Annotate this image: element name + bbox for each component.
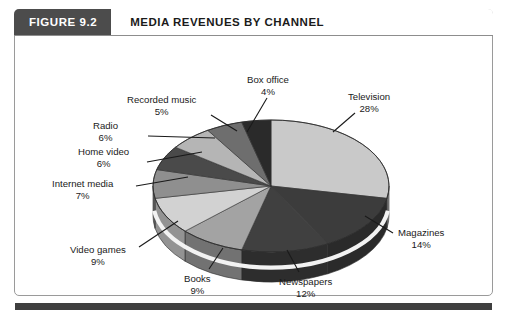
pie-chart: Television 28% Magazines 14% Newspapers … — [15, 36, 492, 295]
figure-bottom-rule — [15, 303, 492, 310]
pie-label-internet-media: Internet media 7% — [52, 178, 113, 201]
pie-label-video-games: Video games 9% — [70, 244, 126, 267]
pie-label-home-video: Home video 6% — [78, 146, 129, 169]
pie-label-box-office: Box office 4% — [247, 74, 289, 97]
pie-top-faces — [153, 120, 389, 252]
pie-slice-television[interactable] — [271, 120, 389, 198]
pie-label-radio: Radio 6% — [93, 120, 118, 143]
pie-label-books: Books 9% — [184, 273, 211, 296]
pie-label-recorded-music: Recorded music 5% — [127, 94, 196, 117]
leader-line-television — [333, 113, 355, 132]
pie-label-television: Television 28% — [348, 91, 390, 114]
figure-container: FIGURE 9.2 MEDIA REVENUES BY CHANNEL Tel… — [0, 0, 505, 324]
figure-header: FIGURE 9.2 MEDIA REVENUES BY CHANNEL — [14, 9, 493, 36]
figure-title: MEDIA REVENUES BY CHANNEL — [111, 9, 493, 35]
figure-number-badge: FIGURE 9.2 — [14, 9, 111, 35]
pie-label-newspapers: Newspapers 12% — [279, 276, 332, 299]
pie-label-magazines: Magazines 14% — [398, 227, 444, 250]
pie-slices-group — [153, 120, 389, 282]
